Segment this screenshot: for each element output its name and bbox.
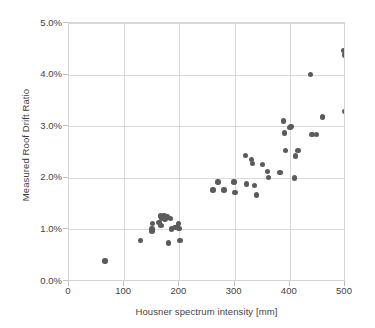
data-point [342,109,345,114]
data-point [260,162,265,167]
data-point [102,258,107,263]
x-tick-label: 0 [48,285,88,296]
x-axis-title: Housner spectrum intensity [mm] [68,306,345,317]
y-tick-mark [63,74,68,75]
gridline-horizontal [69,75,344,76]
x-tick-mark [234,281,235,286]
data-point [158,223,163,228]
y-tick-mark [63,125,68,126]
data-point [283,148,288,153]
gridline-vertical [235,23,236,280]
data-point [210,187,215,192]
gridline-horizontal [69,178,344,179]
data-point [149,226,154,231]
y-tick-label: 1.0% [26,223,62,234]
x-tick-mark [178,281,179,286]
gridline-horizontal [69,23,344,24]
data-point [320,114,325,119]
data-point [266,175,271,180]
x-tick-mark [289,281,290,286]
data-point [342,52,345,57]
x-tick-label: 100 [103,285,143,296]
data-point [277,170,282,175]
y-tick-label: 4.0% [26,68,62,79]
x-tick-label: 400 [269,285,309,296]
gridline-horizontal [69,126,344,127]
data-point [138,238,143,243]
y-tick-label: 0.0% [26,275,62,286]
data-point [215,179,220,184]
data-point [314,132,319,137]
data-point [231,179,236,184]
data-point [250,161,255,166]
y-tick-mark [63,22,68,23]
x-tick-mark [344,281,345,286]
x-tick-label: 300 [214,285,254,296]
data-point [281,118,286,123]
x-tick-label: 200 [158,285,198,296]
data-point [177,238,182,243]
y-axis-title: Measured Roof Drift Ratio [14,0,36,290]
y-tick-label: 3.0% [26,120,62,131]
data-point [265,169,270,174]
data-point [288,124,293,129]
data-point [295,148,300,153]
data-point [176,226,181,231]
y-tick-label: 5.0% [26,17,62,28]
data-point [293,153,298,158]
data-point [252,183,257,188]
data-point [254,192,259,197]
gridline-horizontal [69,229,344,230]
data-point [166,240,171,245]
data-point [232,190,237,195]
x-tick-mark [68,281,69,286]
gridline-vertical [124,23,125,280]
y-tick-label: 2.0% [26,171,62,182]
data-point [282,130,287,135]
scatter-chart: Measured Roof Drift Ratio 0.0%1.0%2.0%3.… [0,0,375,328]
data-point [243,153,248,158]
gridline-vertical [290,23,291,280]
x-tick-label: 500 [324,285,364,296]
data-point [221,187,226,192]
data-point [150,221,155,226]
x-tick-mark [123,281,124,286]
data-point [292,175,297,180]
data-point [168,216,173,221]
plot-area [68,22,345,281]
y-tick-mark [63,177,68,178]
data-point [244,181,249,186]
data-point [308,72,313,77]
y-tick-mark [63,228,68,229]
